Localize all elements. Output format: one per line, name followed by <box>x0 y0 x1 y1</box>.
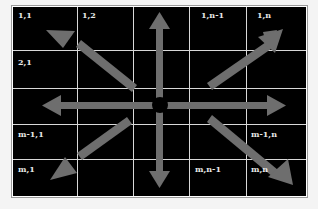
arrow-down-icon <box>149 107 170 188</box>
cell-label-m-1: m,1 <box>18 164 35 174</box>
cell-label-2-1: 2,1 <box>18 57 32 67</box>
grid-board: 1,1 1,2 1,n-1 1,n 2,1 m-1,1 m-1,n m,1 m,… <box>13 7 306 196</box>
cell-label-m-1-n: m-1,n <box>251 129 277 139</box>
cell-label-m-1-1: m-1,1 <box>18 129 44 139</box>
arrow-up-left-icon <box>46 30 137 92</box>
cell-label-m-n-1: m,n-1 <box>195 164 221 174</box>
cell-label-m-n: m,n <box>251 164 268 174</box>
arrow-down-right-icon <box>207 115 293 185</box>
cell-label-1-2: 1,2 <box>82 10 96 20</box>
arrow-up-right-icon <box>207 29 283 90</box>
cell-label-1-n-1: 1,n-1 <box>201 10 224 20</box>
arrow-left-icon <box>42 95 156 116</box>
cell-label-1-n: 1,n <box>257 10 271 20</box>
arrow-up-icon <box>149 12 170 102</box>
cell-label-1-1: 1,1 <box>18 10 32 20</box>
arrow-down-left-icon <box>50 117 132 180</box>
diagram-canvas: 1,1 1,2 1,n-1 1,n 2,1 m-1,1 m-1,n m,1 m,… <box>0 0 318 209</box>
arrow-right-icon <box>165 95 286 116</box>
center-dot-icon <box>152 97 168 113</box>
